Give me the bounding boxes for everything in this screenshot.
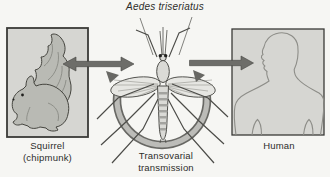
transovarial-label-line2: transmission — [106, 162, 226, 174]
mosquito-thorax — [157, 61, 170, 83]
mosquito-right-wing — [164, 74, 216, 101]
squirrel-label: Squirrel (chipmunk) — [7, 140, 88, 163]
human-label: Human — [233, 140, 325, 152]
label-leader-line-left — [140, 18, 153, 55]
transovarial-label: Transovarial transmission — [106, 150, 226, 173]
transmission-cycle-figure: Aedes triseriatus Squirrel (chipmunk) Hu… — [0, 0, 330, 177]
bidirectional-arrow-icon — [63, 57, 134, 71]
cycle-arrowhead-left — [106, 71, 119, 83]
squirrel-nose — [13, 99, 15, 101]
mosquito-left-wing — [109, 74, 161, 101]
label-leader-line-right — [179, 17, 192, 55]
right-arrow-icon — [190, 56, 254, 70]
transovarial-label-line1: Transovarial — [106, 150, 226, 162]
squirrel-label-line1: Squirrel — [7, 140, 88, 152]
squirrel-label-line2: (chipmunk) — [7, 152, 88, 164]
squirrel-eye — [21, 94, 24, 97]
human-box — [232, 29, 324, 135]
mosquito-species-title: Aedes triseriatus — [95, 1, 235, 13]
